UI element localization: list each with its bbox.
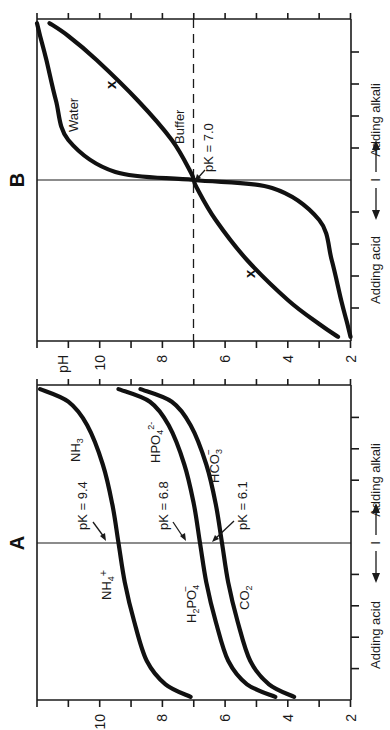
pk-61-label: pK = 6.1 — [235, 481, 250, 530]
panel-a-titrant-ticks — [351, 417, 359, 668]
x-marker-lower: x — [241, 269, 258, 278]
panel-a: A 10 8 6 4 2 NH3 NH4+ HPO42- H2PO4− HCO3… — [6, 379, 383, 730]
panel-a-tick-4: 4 — [280, 714, 296, 722]
co2-label: CO2 — [237, 585, 254, 610]
pk-94-label: pK = 9.4 — [75, 481, 90, 530]
panel-b: B pH 10 8 6 4 2 Water Buffer pK = 7.0 x … — [6, 13, 383, 373]
panel-a-title: A — [6, 536, 28, 550]
panel-b-tick-6: 6 — [217, 355, 233, 363]
panel-a-tick-6: 6 — [217, 714, 233, 722]
panel-a-mid-marker: I — [368, 541, 383, 545]
panel-b-titrant-ticks — [351, 52, 359, 308]
panel-a-adding-acid: Adding acid — [368, 601, 383, 669]
pk-68-arrow — [173, 522, 183, 537]
titration-figure: B pH 10 8 6 4 2 Water Buffer pK = 7.0 x … — [0, 0, 390, 730]
panel-a-acid-arrowhead — [372, 573, 380, 583]
x-marker-upper: x — [102, 80, 119, 89]
panel-a-tick-8: 8 — [154, 714, 170, 722]
panel-b-tick-10: 10 — [92, 355, 108, 371]
panel-b-acid-arrowhead — [372, 210, 380, 220]
panel-b-mid-marker: I — [368, 178, 383, 182]
nh4-label: NH4+ — [97, 570, 116, 600]
h2po4-label: H2PO4− — [180, 585, 201, 623]
pk-94-arrowhead — [100, 533, 106, 541]
nh3-label: NH3 — [68, 438, 85, 462]
panel-a-tick-10: 10 — [92, 714, 108, 730]
hpo4-label: HPO42- — [146, 422, 165, 463]
pk-68-label: pK = 6.8 — [156, 481, 171, 530]
panel-b-tick-4: 4 — [280, 355, 296, 363]
water-label: Water — [66, 97, 81, 132]
panel-b-adding-acid: Adding acid — [368, 236, 383, 304]
panel-b-tick-2: 2 — [343, 355, 359, 363]
hco3-label: HCO3− — [203, 449, 224, 483]
panel-b-ylabel: pH — [55, 355, 71, 373]
panel-a-tick-2: 2 — [343, 714, 359, 722]
buffer-label: Buffer — [172, 109, 187, 144]
pk-7-label: pK = 7.0 — [201, 123, 216, 172]
panel-b-tick-8: 8 — [154, 355, 170, 363]
panel-b-title: B — [6, 173, 28, 187]
